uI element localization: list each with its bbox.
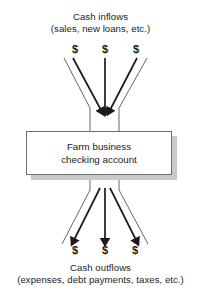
dollar-sign-icon: $ [128, 244, 142, 257]
cash-outflows-caption: Cash outflows (expenses, debt payments, … [0, 262, 201, 287]
dollar-sign-icon: $ [98, 244, 112, 257]
farm-business-checking-account-box: Farm business checking account [26, 131, 172, 175]
outflow-arrows [74, 188, 136, 240]
inflow-arrows [73, 58, 137, 110]
cash-flow-diagram: Cash inflows (sales, new loans, etc.) $ … [0, 0, 201, 297]
cash-outflows-caption-line1: Cash outflows [0, 262, 201, 274]
cash-outflows-caption-line2: (expenses, debt payments, taxes, etc.) [0, 274, 201, 286]
account-box-line1: Farm business [67, 140, 131, 153]
account-box-line2: checking account [61, 153, 137, 166]
dollar-sign-icon: $ [68, 244, 82, 257]
outflow-money-symbols: $ $ $ [0, 244, 201, 257]
